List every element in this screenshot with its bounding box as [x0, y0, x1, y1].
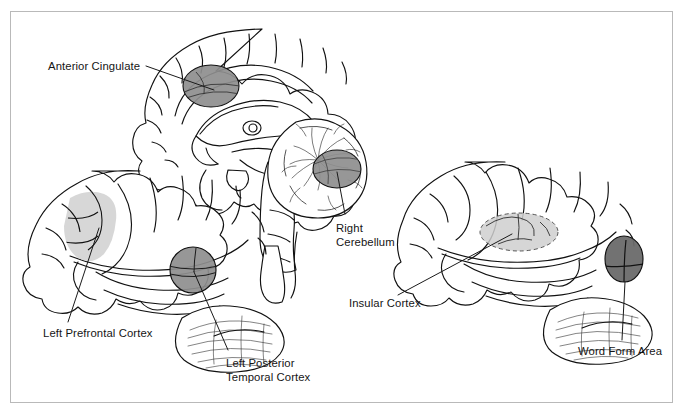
- region-word-form-area: [604, 236, 644, 282]
- label-anterior-cingulate: Anterior Cingulate: [48, 59, 140, 73]
- region-anterior-cingulate: [183, 65, 240, 107]
- label-left-prefrontal-cortex: Left Prefrontal Cortex: [43, 326, 153, 340]
- region-right-cerebellum: [313, 150, 362, 188]
- label-insular-cortex: Insular Cortex: [349, 296, 421, 310]
- label-word-form-area: Word Form Area: [578, 344, 662, 358]
- label-left-posterior-temporal-cortex: Left Posterior Temporal Cortex: [226, 356, 334, 384]
- label-right-cerebellum: Right Cerebellum: [336, 221, 408, 249]
- figure-canvas: Anterior Cingulate Right Cerebellum Left…: [0, 0, 684, 415]
